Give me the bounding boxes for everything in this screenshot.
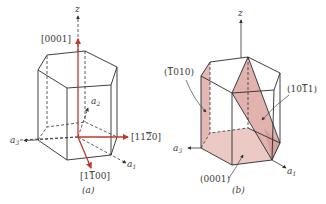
hcp-unit-cell-figure: z [0001] [1120] [1100] a3 [0,0,326,204]
plane-1010 [201,62,210,148]
caption-b: (b) [232,185,245,195]
figure-canvas: z [0001] [1120] [1100] a3 [0,0,326,204]
label-11-20: [1120] [131,132,161,142]
label-a1-b: a1 [287,166,296,177]
a1-axis-b [272,160,286,168]
a3-axis-arrow [24,140,35,141]
a1-axis [78,137,126,163]
label-a2: a2 [91,96,100,107]
caption-a: (a) [82,185,95,195]
label-plane-1011: (1011) [287,84,317,94]
label-0001: [0001] [41,34,71,44]
hidden-edges [20,51,117,140]
label-1-100: [1100] [80,171,110,181]
panel-a: z [0001] [1120] [1100] a3 [10,4,161,195]
label-a3-b: a3 [173,143,182,154]
label-a3: a3 [10,135,19,146]
label-plane-0001: (0001) [200,174,230,184]
label-a1: a1 [127,159,136,170]
direction-1-100-arrow [78,137,91,168]
z-axis-label-b: z [237,8,243,18]
panel-b: z (1010) (1011) (000 [164,8,317,195]
label-plane-1010: (1010) [164,67,194,77]
z-axis-label: z [74,4,80,14]
